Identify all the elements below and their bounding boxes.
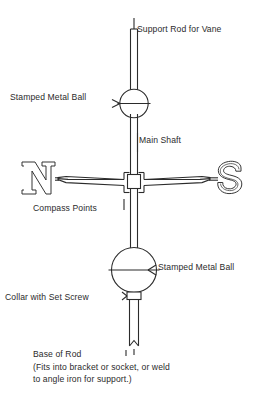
label-collar-with-set-screw: Collar with Set Screw bbox=[5, 292, 89, 303]
weather-vane-diagram bbox=[0, 0, 267, 396]
label-stamped-metal-ball-bottom: Stamped Metal Ball bbox=[158, 262, 234, 273]
compass-letter-north-shape bbox=[22, 162, 55, 194]
center-collar-shape bbox=[128, 175, 141, 189]
stamped-metal-ball-top-shape bbox=[118, 89, 151, 117]
label-base-note-line2: to angle iron for support.) bbox=[33, 374, 132, 384]
compass-letter-south-shape bbox=[218, 161, 242, 193]
compass-point-arm-east-shape bbox=[144, 177, 210, 186]
collar-set-screw-shape bbox=[127, 292, 141, 300]
label-stamped-metal-ball-top: Stamped Metal Ball bbox=[10, 92, 86, 103]
label-base-of-rod: Base of Rod bbox=[33, 349, 81, 360]
compass-point-arm-west-shape bbox=[58, 177, 124, 186]
stamped-metal-ball-bottom-shape bbox=[109, 248, 160, 293]
label-compass-points: Compass Points bbox=[33, 203, 97, 214]
label-main-shaft: Main Shaft bbox=[139, 135, 181, 146]
leader-line-ball-top bbox=[112, 100, 120, 108]
diagram-page: Support Rod for Vane Stamped Metal Ball … bbox=[0, 0, 267, 396]
label-support-rod-for-vane: Support Rod for Vane bbox=[137, 24, 222, 35]
label-base-of-rod-note: (Fits into bracket or socket, or weld to… bbox=[33, 362, 170, 385]
leader-line-collar bbox=[122, 292, 127, 300]
support-rod-shape bbox=[131, 29, 138, 94]
base-rod-shape bbox=[130, 300, 139, 347]
label-base-note-line1: (Fits into bracket or socket, or weld bbox=[33, 362, 170, 372]
